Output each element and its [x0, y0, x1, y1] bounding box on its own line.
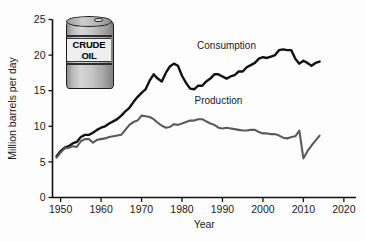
- x-tick-label-2000: 2000: [251, 203, 275, 215]
- barrel-label: CRUDE OIL: [67, 38, 111, 62]
- barrel-label-line-oil: OIL: [81, 51, 96, 61]
- oil-production-consumption-figure: 0510152025195019601970198019902000201020…: [0, 0, 365, 241]
- barrel-bung-cap: [94, 18, 103, 22]
- series-annotation-production: Production: [195, 95, 243, 106]
- y-tick-label-20: 20: [34, 49, 46, 61]
- barrel-top-lid: [66, 16, 112, 27]
- x-tick-label-1990: 1990: [211, 203, 235, 215]
- barrel-label-line-crude: CRUDE: [73, 40, 106, 50]
- y-tick-label-10: 10: [34, 120, 46, 132]
- x-tick-label-2010: 2010: [292, 203, 316, 215]
- y-axis-title: Million barrels per day: [6, 56, 18, 159]
- series-line-production: [57, 116, 320, 159]
- x-tick-label-1980: 1980: [170, 203, 194, 215]
- barrel-rib-upper: [66, 35, 112, 37]
- x-tick-label-1970: 1970: [130, 203, 154, 215]
- y-tick-label-25: 25: [34, 13, 46, 25]
- x-tick-label-2020: 2020: [332, 203, 356, 215]
- barrel-rib-lower: [66, 63, 112, 65]
- crude-oil-barrel-illustration: CRUDE OIL: [63, 15, 116, 91]
- x-tick-label-1960: 1960: [89, 203, 113, 215]
- x-tick-label-1950: 1950: [49, 203, 73, 215]
- x-axis-title: Year: [194, 218, 216, 230]
- chart-canvas: 0510152025195019601970198019902000201020…: [0, 0, 365, 241]
- y-tick-label-0: 0: [40, 191, 46, 203]
- y-tick-label-5: 5: [40, 156, 46, 168]
- y-tick-label-15: 15: [34, 84, 46, 96]
- series-annotation-consumption: Consumption: [197, 40, 256, 51]
